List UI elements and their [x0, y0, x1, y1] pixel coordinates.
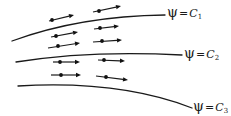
constant-symbol: C	[206, 48, 214, 61]
arrowhead-icon	[73, 31, 78, 35]
arrowhead-icon	[75, 42, 80, 46]
particle-dot-icon	[56, 44, 60, 48]
velocity-vector	[48, 42, 80, 48]
arrowhead-icon	[75, 60, 80, 64]
velocity-vector	[49, 14, 74, 22]
streamline-label-1: ψ=C1	[167, 5, 202, 21]
velocity-vector	[53, 60, 80, 64]
velocity-vectors-group	[48, 5, 128, 82]
vector-shaft	[93, 40, 117, 42]
equals-sign: =	[205, 101, 214, 114]
vector-shaft	[98, 60, 120, 61]
streamlines-group	[12, 15, 192, 108]
particle-dot-icon	[98, 26, 102, 30]
velocity-vector	[51, 31, 78, 38]
streamline-2	[16, 54, 182, 62]
equals-sign: =	[196, 48, 205, 61]
particle-dot-icon	[100, 39, 104, 43]
vector-shaft	[94, 27, 114, 29]
vector-shaft	[48, 44, 75, 48]
velocity-vector	[98, 58, 125, 63]
streamline-label-2: ψ=C2	[184, 46, 219, 62]
arrowhead-icon	[76, 73, 81, 77]
particle-dot-icon	[104, 75, 108, 79]
particle-dot-icon	[54, 34, 58, 38]
arrowhead-icon	[117, 38, 122, 42]
velocity-vector	[93, 5, 121, 13]
psi-symbol: ψ	[193, 98, 204, 114]
constant-symbol: C	[215, 101, 223, 114]
arrowhead-icon	[123, 77, 128, 81]
constant-symbol: C	[189, 7, 197, 20]
velocity-vector	[93, 38, 122, 43]
constant-subscript: 1	[198, 13, 202, 21]
arrowhead-icon	[116, 5, 121, 9]
arrowhead-icon	[120, 59, 125, 63]
equals-sign: =	[179, 7, 188, 20]
particle-dot-icon	[50, 18, 54, 22]
psi-symbol: ψ	[184, 45, 195, 61]
velocity-vector	[94, 24, 119, 29]
psi-symbol: ψ	[167, 4, 178, 20]
arrowhead-icon	[114, 24, 119, 28]
vector-shaft	[93, 7, 116, 12]
streamline-label-3: ψ=C3	[193, 99, 228, 115]
particle-dot-icon	[59, 73, 63, 77]
particle-dot-icon	[58, 60, 62, 64]
particle-dot-icon	[97, 9, 101, 13]
particle-dot-icon	[102, 58, 106, 62]
streamline-3	[18, 85, 192, 108]
constant-subscript: 2	[215, 54, 219, 62]
velocity-vector	[51, 73, 81, 77]
velocity-vector	[96, 75, 128, 81]
streamline-1	[12, 15, 165, 41]
constant-subscript: 3	[224, 107, 228, 115]
vector-shaft	[96, 76, 123, 79]
arrowhead-icon	[69, 14, 74, 18]
